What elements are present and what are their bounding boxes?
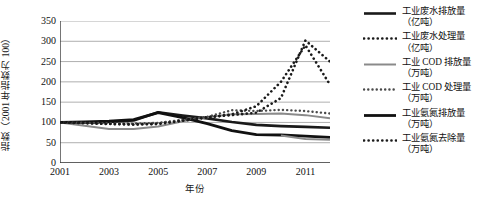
plot-svg	[60, 21, 330, 163]
legend-label: 工业 COD 处理量 （万吨）	[402, 82, 471, 104]
legend-item[interactable]: 工业废水排放量 （亿吨）	[363, 6, 497, 28]
y-tick-label: 300	[41, 36, 56, 46]
x-tick-label: 2007	[197, 167, 217, 177]
x-axis-tick-labels: 200120032005200720092011	[60, 167, 330, 181]
y-tick-label: 250	[41, 57, 56, 67]
legend-label: 工业氨氮排放量 （万吨）	[402, 108, 465, 130]
chart-container: 指数（2001 年指数为 100） 050100150200250300350 …	[0, 0, 497, 204]
chart-legend: 工业废水排放量 （亿吨）工业废水处理量 （亿吨）工业 COD 排放量 （万吨）工…	[363, 6, 497, 158]
legend-line-icon	[363, 32, 397, 45]
legend-line-icon	[363, 134, 397, 147]
legend-label: 工业废水处理量 （亿吨）	[402, 31, 465, 53]
legend-line-icon	[363, 83, 397, 96]
legend-item[interactable]: 工业氨氮排放量 （万吨）	[363, 108, 497, 130]
x-axis-title: 年份	[60, 181, 330, 195]
legend-item[interactable]: 工业废水处理量 （亿吨）	[363, 31, 497, 53]
y-axis-tick-labels: 050100150200250300350	[18, 21, 56, 163]
series-line	[60, 40, 330, 124]
y-tick-label: 50	[46, 138, 56, 148]
plot-area	[60, 21, 330, 163]
legend-item[interactable]: 工业 COD 处理量 （万吨）	[363, 82, 497, 104]
y-tick-label: 150	[41, 97, 56, 107]
legend-label: 工业氨氮去除量 （万吨）	[402, 133, 465, 155]
legend-line-icon	[363, 7, 397, 20]
x-tick-label: 2003	[99, 167, 119, 177]
legend-item[interactable]: 工业氨氮去除量 （万吨）	[363, 133, 497, 155]
legend-label: 工业 COD 排放量 （万吨）	[402, 57, 471, 79]
y-tick-label: 200	[41, 77, 56, 87]
legend-line-icon	[363, 58, 397, 71]
y-tick-label: 350	[41, 16, 56, 26]
x-tick-label: 2011	[296, 167, 316, 177]
series-line	[60, 45, 330, 124]
y-tick-label: 100	[41, 117, 56, 127]
legend-line-icon	[363, 109, 397, 122]
x-tick-label: 2001	[50, 167, 70, 177]
legend-label: 工业废水排放量 （亿吨）	[402, 6, 465, 28]
legend-item[interactable]: 工业 COD 排放量 （万吨）	[363, 57, 497, 79]
x-tick-label: 2005	[148, 167, 168, 177]
x-tick-label: 2009	[246, 167, 266, 177]
y-axis-title: 指数（2001 年指数为 100）	[0, 22, 14, 162]
